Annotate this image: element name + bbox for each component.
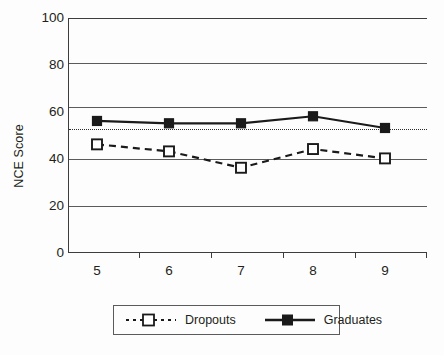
data-point-marker <box>92 139 102 149</box>
legend-item-dropouts: Dropouts <box>125 306 236 334</box>
data-point-marker <box>164 146 174 156</box>
chart-legend: Dropouts Graduates <box>113 305 340 335</box>
data-point-marker <box>309 112 318 121</box>
series-markers-dropouts <box>92 139 390 172</box>
data-point-marker <box>237 119 246 128</box>
legend-item-graduates: Graduates <box>264 306 382 334</box>
data-point-marker <box>380 153 390 163</box>
data-point-marker <box>236 163 246 173</box>
legend-swatch-graduates <box>264 313 316 327</box>
legend-label-graduates: Graduates <box>324 313 382 327</box>
legend-swatch-dropouts <box>125 313 177 327</box>
data-point-marker <box>381 123 390 132</box>
legend-label-dropouts: Dropouts <box>185 313 236 327</box>
data-point-marker <box>165 119 174 128</box>
data-point-marker <box>308 144 318 154</box>
series-layer <box>0 0 444 355</box>
data-point-marker <box>93 116 102 125</box>
chart-figure: NCE Score 100 80 60 40 20 0 5 6 7 8 9 <box>0 0 444 355</box>
